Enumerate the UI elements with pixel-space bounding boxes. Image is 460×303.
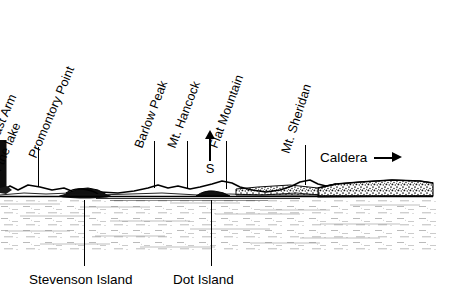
leader-line-barlow-peak <box>154 141 155 188</box>
label-stevenson-island-text: Stevenson Island <box>29 272 133 287</box>
arrow-up-icon <box>199 130 221 161</box>
arrow-right-icon <box>374 152 402 163</box>
near-shore-ridge <box>0 193 320 195</box>
leader-line-mt-hancock <box>187 141 188 189</box>
label-dot-island: Dot Island <box>173 272 234 287</box>
mid-shore-strip <box>236 185 318 195</box>
label-southeast-arm-of-the-lake: Southeast Arm of the lake <box>0 92 35 181</box>
label-mt-sheridan-text: Mt. Sheridan <box>280 83 315 156</box>
south-letter: S <box>199 162 221 175</box>
leader-line-dot-island <box>211 200 212 266</box>
label-mt-sheridan: Mt. Sheridan <box>280 83 315 156</box>
stevenson-island-mass <box>59 188 111 198</box>
leader-line-mt-sheridan <box>305 145 306 185</box>
label-stevenson-island: Stevenson Island <box>29 272 133 287</box>
dot-island-mass <box>196 191 230 196</box>
caldera-label: Caldera <box>320 150 367 165</box>
waterline <box>0 197 433 201</box>
label-dot-island-text: Dot Island <box>173 272 234 287</box>
panorama-figure: Southeast Arm of the lake Promontory Poi… <box>0 0 460 303</box>
distant-ridge-outline <box>0 180 336 194</box>
leader-line-flat-mountain <box>226 141 227 189</box>
leader-line-stevenson-island <box>84 200 85 266</box>
caldera-rim-bluff <box>318 180 433 197</box>
label-mt-hancock-text: Mt. Hancock <box>166 80 204 151</box>
label-mt-hancock: Mt. Hancock <box>166 80 204 151</box>
caldera-annotation: Caldera <box>320 150 402 165</box>
south-direction-indicator: S <box>199 130 221 175</box>
lake-water <box>0 196 460 256</box>
label-promontory-point: Promontory Point <box>27 65 77 160</box>
label-barlow-peak: Barlow Peak <box>133 79 171 150</box>
label-promontory-point-text: Promontory Point <box>27 65 77 160</box>
label-barlow-peak-text: Barlow Peak <box>133 79 171 150</box>
